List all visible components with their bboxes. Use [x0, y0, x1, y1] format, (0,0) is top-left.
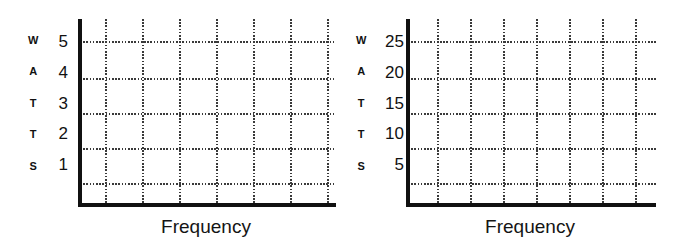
y-axis-line-right	[406, 19, 410, 207]
plot-area-left	[80, 19, 336, 207]
y-axis-ticks-left: 5 4 3 2 1	[52, 33, 68, 173]
y-axis-tick-label: 20	[385, 64, 404, 81]
x-axis-line-right	[406, 203, 656, 207]
y-axis-label-watts-right: W A T T S	[356, 34, 366, 172]
plot-area-right	[408, 19, 656, 207]
y-axis-letter: W	[356, 34, 366, 46]
gridlines-right	[408, 19, 656, 207]
y-axis-tick-label: 4	[59, 64, 68, 81]
y-axis-letter: T	[358, 129, 365, 141]
y-axis-line-left	[78, 19, 82, 207]
y-axis-tick-label: 2	[59, 125, 68, 142]
y-axis-letter: S	[358, 160, 365, 172]
x-axis-label-right: Frequency	[460, 216, 600, 238]
gridlines-left	[80, 19, 336, 207]
y-axis-letter: A	[357, 66, 365, 78]
y-axis-letter: A	[29, 66, 37, 78]
y-axis-tick-label: 25	[385, 33, 404, 50]
charts-row: W A T T S 5 4 3 2 1	[0, 0, 696, 245]
y-axis-letter: T	[358, 97, 365, 109]
y-axis-tick-label: 1	[59, 156, 68, 173]
y-axis-tick-label: 5	[59, 33, 68, 50]
chart-panel-right: W A T T S 25 20 15 10 5	[348, 0, 696, 245]
y-axis-letter: T	[30, 129, 37, 141]
y-axis-tick-label: 5	[395, 156, 404, 173]
x-axis-line-left	[78, 203, 336, 207]
x-axis-label-left: Frequency	[136, 216, 276, 238]
y-axis-letter: W	[28, 34, 38, 46]
y-axis-label-watts-left: W A T T S	[28, 34, 38, 172]
y-axis-tick-label: 10	[385, 125, 404, 142]
y-axis-letter: T	[30, 97, 37, 109]
y-axis-ticks-right: 25 20 15 10 5	[372, 33, 404, 173]
y-axis-tick-label: 15	[385, 95, 404, 112]
y-axis-tick-label: 3	[59, 95, 68, 112]
chart-panel-left: W A T T S 5 4 3 2 1	[0, 0, 348, 245]
y-axis-letter: S	[30, 160, 37, 172]
